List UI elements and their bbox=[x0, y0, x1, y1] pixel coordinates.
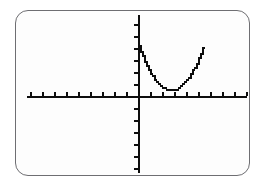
curve-pixel bbox=[200, 53, 202, 59]
curve-pixel bbox=[182, 83, 185, 85]
x-axis-tick bbox=[198, 92, 200, 96]
y-axis-group bbox=[138, 15, 140, 173]
x-axis-tick bbox=[102, 92, 104, 96]
y-axis-tick bbox=[134, 132, 138, 134]
curve-pixel bbox=[180, 85, 183, 87]
calculator-screen-bezel bbox=[15, 10, 250, 176]
curve-pixel bbox=[160, 85, 163, 87]
curve-pixel bbox=[186, 79, 189, 81]
y-axis-line bbox=[138, 15, 140, 173]
x-axis-tick bbox=[90, 92, 92, 96]
curve-pixel bbox=[198, 57, 200, 65]
y-axis-tick bbox=[134, 156, 138, 158]
curve-pixel bbox=[192, 69, 194, 75]
curve-pixel bbox=[178, 87, 181, 89]
curve-pixel bbox=[156, 81, 159, 83]
y-axis-tick bbox=[134, 144, 138, 146]
y-axis-tick bbox=[134, 120, 138, 122]
x-axis-tick bbox=[210, 92, 212, 96]
x-axis-tick bbox=[114, 92, 116, 96]
curve-pixel bbox=[148, 65, 150, 71]
y-axis-tick bbox=[134, 60, 138, 62]
y-axis-tick bbox=[134, 168, 138, 170]
graph-plot-area[interactable] bbox=[16, 11, 249, 175]
x-axis-tick bbox=[150, 92, 152, 96]
x-axis-tick bbox=[234, 92, 236, 96]
x-axis-tick bbox=[30, 92, 32, 96]
curve-pixel bbox=[146, 61, 148, 67]
curve-pixel bbox=[140, 45, 142, 53]
x-axis-group bbox=[27, 96, 247, 98]
y-axis-tick bbox=[134, 84, 138, 86]
curve-pixel bbox=[142, 51, 144, 57]
x-axis-tick bbox=[246, 92, 248, 96]
y-axis-tick bbox=[134, 108, 138, 110]
x-axis-tick bbox=[162, 92, 164, 96]
curve-pixel bbox=[154, 75, 156, 81]
x-axis-tick bbox=[42, 92, 44, 96]
curve-pixel bbox=[176, 89, 179, 91]
curve-pixel bbox=[158, 83, 161, 85]
curve-pixel bbox=[144, 55, 146, 63]
x-axis-tick bbox=[126, 92, 128, 96]
curve-pixel bbox=[164, 87, 167, 89]
y-axis-tick bbox=[134, 48, 138, 50]
x-axis-tick bbox=[186, 92, 188, 96]
screenshot-root bbox=[0, 0, 263, 190]
x-axis-tick bbox=[54, 92, 56, 96]
curve-pixel bbox=[196, 63, 198, 69]
x-axis-tick bbox=[222, 92, 224, 96]
y-axis-tick bbox=[134, 36, 138, 38]
y-axis-tick bbox=[134, 72, 138, 74]
curve-pixel bbox=[150, 69, 152, 75]
curve-pixel bbox=[202, 47, 204, 55]
x-axis-tick bbox=[78, 92, 80, 96]
x-axis-tick bbox=[66, 92, 68, 96]
x-axis-tick bbox=[174, 92, 176, 96]
graph-canvas bbox=[16, 11, 250, 176]
curve-pixel bbox=[190, 73, 192, 79]
curve-pixel bbox=[184, 81, 187, 83]
y-axis-tick bbox=[134, 24, 138, 26]
x-axis-line bbox=[27, 96, 247, 98]
parabola-curve-group bbox=[138, 45, 205, 91]
